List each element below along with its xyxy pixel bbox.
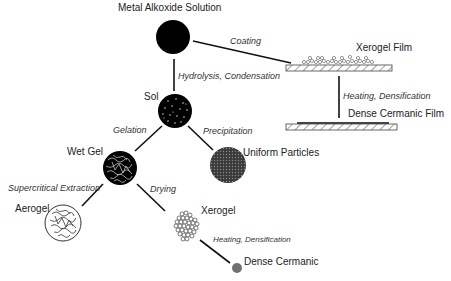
dense-ceramic-film bbox=[286, 122, 397, 130]
xerogel-heating-densification-label: Heating, Densification bbox=[213, 236, 291, 244]
wet-gel-label: Wet Gel bbox=[67, 147, 103, 157]
metal-alkoxide-label: Metal Alkoxide Solution bbox=[118, 3, 221, 13]
dense-ceramic-film-label: Dense Cermanic Film bbox=[348, 109, 444, 119]
sol-circle bbox=[158, 94, 192, 128]
gelation-label: Gelation bbox=[113, 126, 147, 135]
xerogel-label: Xerogel bbox=[201, 206, 235, 216]
precipitation-label: Precipitation bbox=[203, 127, 253, 136]
hydrolysis-condensation-label: Hydrolysis, Condensation bbox=[178, 72, 280, 81]
xerogel-film bbox=[286, 55, 392, 71]
dense-ceramic-dot bbox=[232, 263, 242, 273]
sol-label: Sol bbox=[144, 92, 158, 102]
drying-label: Drying bbox=[150, 185, 176, 194]
uniform-particles-circle bbox=[210, 147, 246, 183]
aerogel-circle bbox=[45, 205, 81, 241]
dense-ceramic-label: Dense Cermanic bbox=[244, 257, 318, 267]
wet-gel-circle bbox=[103, 151, 137, 185]
film-heating-densification-label: Heating, Densification bbox=[343, 92, 431, 101]
coating-label: Coating bbox=[230, 37, 261, 46]
aerogel-label: Aerogel bbox=[15, 204, 49, 214]
sol-gel-diagram: Metal Alkoxide Solution Sol Wet Gel Unif… bbox=[0, 0, 451, 281]
supercritical-extraction-label: Supercritical Extraction bbox=[8, 184, 100, 193]
xerogel-film-label: Xerogel Film bbox=[356, 43, 412, 53]
uniform-particles-label: Uniform Particles bbox=[243, 148, 319, 158]
metal-alkoxide-circle bbox=[156, 20, 190, 54]
xerogel-cluster bbox=[174, 211, 199, 241]
